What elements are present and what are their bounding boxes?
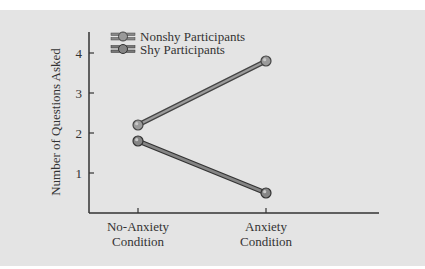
y-tick-label: 2 — [76, 126, 83, 141]
line-chart: 1234 No-AnxietyConditionAnxietyCondition… — [0, 0, 425, 269]
series-shy — [133, 136, 271, 198]
x-ticks: No-AnxietyConditionAnxietyCondition — [107, 208, 293, 249]
x-category-label: No-Anxiety — [107, 219, 170, 234]
y-tick-label: 4 — [76, 46, 83, 61]
data-point — [261, 56, 271, 66]
legend: Nonshy Participants Shy Participants — [111, 29, 245, 57]
data-point — [133, 136, 143, 146]
legend-item-shy: Shy Participants — [111, 42, 225, 57]
x-category-label: Anxiety — [245, 219, 287, 234]
series-group — [133, 56, 271, 198]
series-nonshy — [133, 56, 271, 130]
y-ticks: 1234 — [76, 46, 95, 181]
y-tick-label: 3 — [76, 86, 83, 101]
data-point — [261, 188, 271, 198]
legend-label-shy: Shy Participants — [140, 42, 225, 57]
legend-marker-nonshy-icon — [111, 32, 135, 41]
legend-marker-shy-icon — [111, 45, 135, 54]
y-tick-label: 1 — [76, 166, 83, 181]
x-category-label: Condition — [112, 234, 165, 249]
data-point — [133, 120, 143, 130]
y-axis-title: Number of Questions Asked — [48, 48, 63, 196]
x-category-label: Condition — [240, 234, 293, 249]
